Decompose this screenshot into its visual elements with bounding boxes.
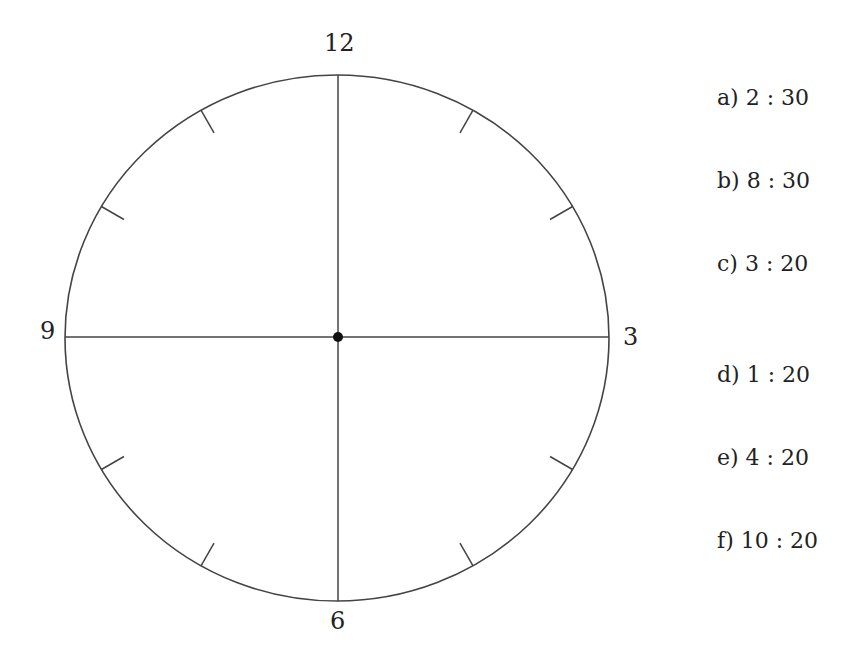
center-dot xyxy=(333,332,343,342)
tick-mark-5 xyxy=(460,543,473,566)
question-label: c) xyxy=(717,251,738,276)
tick-mark-2 xyxy=(550,207,573,220)
clock-face xyxy=(0,0,660,664)
question-f: f) 10 : 20 xyxy=(689,508,818,574)
question-time: 1 : 20 xyxy=(747,362,810,387)
numeral-9: 9 xyxy=(40,319,55,343)
numeral-6: 6 xyxy=(330,609,345,633)
question-label: e) xyxy=(717,445,739,470)
tick-mark-11 xyxy=(201,110,214,133)
question-time: 2 : 30 xyxy=(746,85,809,110)
question-label: a) xyxy=(717,85,739,110)
question-e: e) 4 : 20 xyxy=(689,425,809,491)
question-label: f) xyxy=(717,528,734,553)
tick-mark-4 xyxy=(550,457,573,470)
question-a: a) 2 : 30 xyxy=(689,65,809,131)
question-label: b) xyxy=(717,168,740,193)
tick-mark-1 xyxy=(460,110,473,133)
question-time: 4 : 20 xyxy=(746,445,809,470)
tick-mark-10 xyxy=(101,207,124,220)
question-time: 8 : 30 xyxy=(747,168,810,193)
tick-mark-8 xyxy=(101,457,124,470)
numeral-12: 12 xyxy=(324,31,355,55)
question-c: c) 3 : 20 xyxy=(689,231,808,297)
numeral-3: 3 xyxy=(623,325,638,349)
question-time: 3 : 20 xyxy=(745,251,808,276)
question-d: d) 1 : 20 xyxy=(689,342,810,408)
question-b: b) 8 : 30 xyxy=(689,148,810,214)
tick-mark-7 xyxy=(201,543,214,566)
question-time: 10 : 20 xyxy=(741,528,818,553)
question-label: d) xyxy=(717,362,740,387)
